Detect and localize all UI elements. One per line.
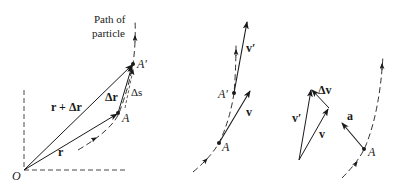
path-label-line2: particle <box>92 28 125 39</box>
path-label-line1: Path of <box>94 14 125 25</box>
O-label: O <box>12 170 21 182</box>
point-A-prime <box>131 62 135 66</box>
diagram-canvas <box>0 0 393 189</box>
point-A-2 <box>217 141 221 145</box>
point-A-prime-2 <box>232 91 236 95</box>
a-label: a <box>347 110 353 122</box>
r-plus-dr-vector <box>24 65 132 170</box>
a-vector <box>342 123 364 149</box>
r-vector <box>24 114 117 170</box>
ds-label: Δs <box>131 87 142 98</box>
v-prime-label-2: v′ <box>246 42 255 54</box>
velocity-path <box>193 42 236 172</box>
A-label: A <box>122 112 129 124</box>
A-label-2: A <box>222 141 229 153</box>
point-A-4 <box>362 147 366 151</box>
v-prime-label-3: v′ <box>292 112 301 124</box>
dr-vector <box>118 66 132 113</box>
A-prime-label: A′ <box>137 58 147 70</box>
path-arrow-lower-2 <box>203 159 207 163</box>
A-prime-label-2: A′ <box>218 88 228 100</box>
v-label-2: v <box>246 106 252 118</box>
v-label-3: v <box>319 128 325 140</box>
r-label: r <box>58 146 63 158</box>
r-plus-dr-label: r + Δr <box>51 101 82 113</box>
velocity-triangle-panel <box>299 90 329 160</box>
A-label-4: A <box>368 146 375 158</box>
dr-label: Δr <box>105 91 118 103</box>
dv-label: Δv <box>318 84 332 96</box>
point-A <box>116 111 120 115</box>
position-panel <box>24 20 135 170</box>
